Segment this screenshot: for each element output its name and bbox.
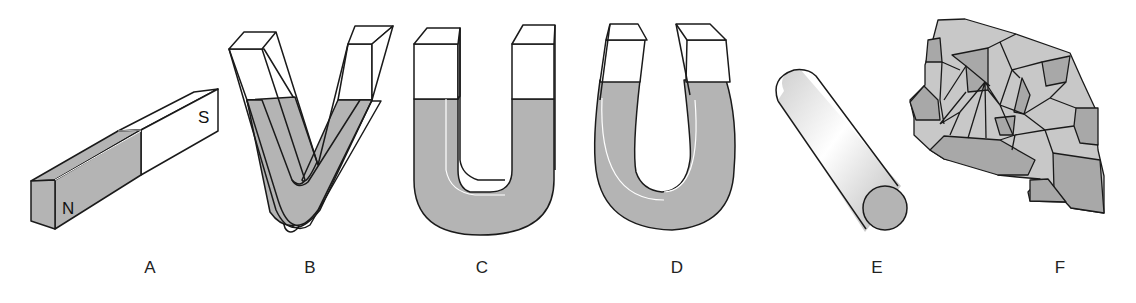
label-b: B	[304, 258, 315, 278]
v-magnet-b	[229, 26, 393, 232]
label-a: A	[144, 258, 155, 278]
magnet-shapes-figure: N S	[0, 0, 1136, 303]
label-f: F	[1055, 258, 1065, 278]
u-magnet-c	[414, 25, 555, 235]
north-pole-label: N	[62, 199, 74, 218]
label-c: C	[476, 258, 488, 278]
horseshoe-magnet-d	[595, 24, 735, 230]
label-e: E	[871, 258, 882, 278]
lodestone-f	[910, 19, 1104, 213]
south-pole-label: S	[198, 108, 209, 127]
bar-magnet-a: N S	[31, 89, 218, 229]
rod-magnet-e	[776, 69, 907, 232]
label-d: D	[671, 258, 683, 278]
